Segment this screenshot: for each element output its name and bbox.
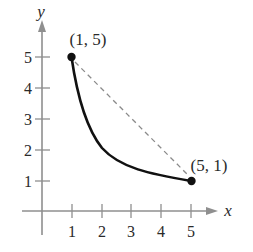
y-axis-arrow-icon: [38, 20, 46, 32]
y-tick-label: 1: [24, 173, 32, 190]
y-tick-label: 5: [24, 49, 32, 66]
point-5-1: [187, 177, 195, 185]
y-axis-label: y: [35, 2, 45, 21]
y-tick-label: 3: [24, 111, 32, 128]
x-tick-label: 4: [157, 223, 165, 240]
secant-line: [75, 62, 189, 176]
x-tick-labels: 1 2 3 4 5: [68, 223, 195, 240]
x-axis-label: x: [223, 201, 232, 220]
x-axis-arrow-icon: [206, 207, 218, 215]
function-plot: 1 2 3 4 5 1 2 3 4 5 y x (1, 5) (5, 1): [0, 0, 253, 252]
point-label-5-1: (5, 1): [191, 156, 228, 175]
x-tick-label: 3: [127, 223, 135, 240]
point-label-1-5: (1, 5): [70, 30, 107, 49]
x-tick-label: 5: [187, 223, 195, 240]
x-tick-label: 2: [98, 223, 106, 240]
point-1-5: [67, 53, 75, 61]
y-tick-labels: 1 2 3 4 5: [24, 49, 32, 190]
y-tick-label: 2: [24, 142, 32, 159]
y-tick-label: 4: [24, 80, 32, 97]
x-tick-label: 1: [68, 223, 76, 240]
axes: [22, 20, 218, 235]
